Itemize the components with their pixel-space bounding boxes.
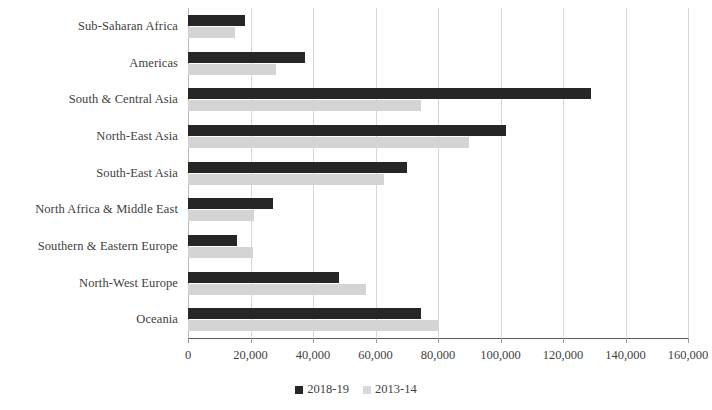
bar-row — [188, 8, 688, 45]
category-label: Southern & Eastern Europe — [0, 228, 183, 265]
category-label: South & Central Asia — [0, 81, 183, 118]
plot-area — [188, 8, 688, 338]
category-label: Oceania — [0, 301, 183, 338]
x-axis-tick — [251, 338, 252, 343]
x-axis-label: 160,000 — [668, 348, 709, 363]
legend-swatch-icon — [363, 386, 371, 394]
bar-2013-14 — [188, 247, 253, 258]
bar-row — [188, 118, 688, 155]
bar-row — [188, 265, 688, 302]
x-axis-tick — [188, 338, 189, 343]
x-axis-label: 40,000 — [296, 348, 330, 363]
bar-2013-14 — [188, 64, 276, 75]
legend-label: 2018-19 — [307, 382, 349, 397]
chart-legend: 2018-192013-14 — [0, 382, 712, 397]
x-axis-label: 20,000 — [233, 348, 267, 363]
x-axis-tick — [376, 338, 377, 343]
x-axis-label: 120,000 — [543, 348, 584, 363]
bar-2013-14 — [188, 284, 366, 295]
legend-swatch-icon — [295, 386, 303, 394]
category-label: South-East Asia — [0, 155, 183, 192]
category-label: Sub-Saharan Africa — [0, 8, 183, 45]
x-axis-label: 0 — [185, 348, 191, 363]
bar-2018-19 — [188, 162, 407, 173]
bar-2013-14 — [188, 100, 421, 111]
x-axis-tick — [501, 338, 502, 343]
category-axis: Sub-Saharan AfricaAmericasSouth & Centra… — [0, 8, 183, 338]
x-axis-tick — [563, 338, 564, 343]
gridline — [688, 8, 689, 338]
x-axis-tick — [438, 338, 439, 343]
x-axis-label: 60,000 — [358, 348, 392, 363]
x-axis-label: 80,000 — [421, 348, 455, 363]
bar-2018-19 — [188, 15, 245, 26]
bar-2013-14 — [188, 210, 254, 221]
category-label: Americas — [0, 45, 183, 82]
bar-2018-19 — [188, 198, 273, 209]
bar-row — [188, 228, 688, 265]
x-axis-labels: 020,00040,00060,00080,000100,000120,0001… — [0, 348, 712, 368]
bar-2018-19 — [188, 308, 421, 319]
bar-2018-19 — [188, 235, 237, 246]
bar-row — [188, 191, 688, 228]
legend-label: 2013-14 — [375, 382, 417, 397]
bar-2013-14 — [188, 320, 438, 331]
bar-chart: Sub-Saharan AfricaAmericasSouth & Centra… — [0, 0, 712, 410]
category-label: North Africa & Middle East — [0, 191, 183, 228]
bar-row — [188, 45, 688, 82]
bar-2013-14 — [188, 27, 235, 38]
x-axis-label: 140,000 — [605, 348, 646, 363]
bar-2013-14 — [188, 137, 469, 148]
category-label: North-West Europe — [0, 265, 183, 302]
legend-item[interactable]: 2013-14 — [363, 382, 417, 397]
bar-2018-19 — [188, 125, 506, 136]
bar-2018-19 — [188, 272, 339, 283]
bar-row — [188, 155, 688, 192]
bar-row — [188, 81, 688, 118]
legend-item[interactable]: 2018-19 — [295, 382, 349, 397]
x-axis-tick — [626, 338, 627, 343]
bar-2013-14 — [188, 174, 384, 185]
x-axis-label: 100,000 — [480, 348, 521, 363]
category-label: North-East Asia — [0, 118, 183, 155]
x-axis-tick — [688, 338, 689, 343]
bar-2018-19 — [188, 52, 305, 63]
x-axis-tick — [313, 338, 314, 343]
bar-row — [188, 301, 688, 338]
bar-2018-19 — [188, 88, 591, 99]
bar-rows — [188, 8, 688, 338]
